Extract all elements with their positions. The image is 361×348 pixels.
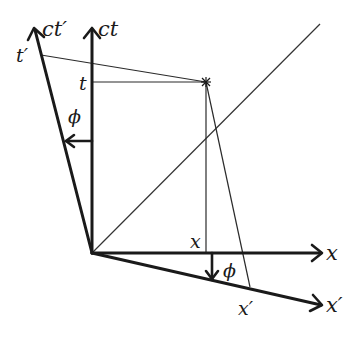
x-axis-label: x xyxy=(326,241,338,265)
ct-prime-axis-label: ct′ xyxy=(42,17,67,41)
x-prime-axis-label: x′ xyxy=(326,293,343,317)
x-prime-label: x′ xyxy=(238,297,254,319)
ct-axis-label: ct xyxy=(98,17,119,41)
x-prime-axis xyxy=(92,253,321,305)
t-prime-projection-line xyxy=(41,55,206,82)
t-prime-label: t′ xyxy=(16,44,29,66)
t-label: t xyxy=(79,72,87,94)
x-label: x xyxy=(190,230,201,252)
lower-phi-label: ϕ xyxy=(223,259,236,281)
upper-phi-label: ϕ xyxy=(68,105,81,127)
spacetime-diagram: ct ct′ x x′ t′ t x x′ ϕ ϕ xyxy=(0,0,361,348)
event-marker-icon xyxy=(201,77,211,87)
